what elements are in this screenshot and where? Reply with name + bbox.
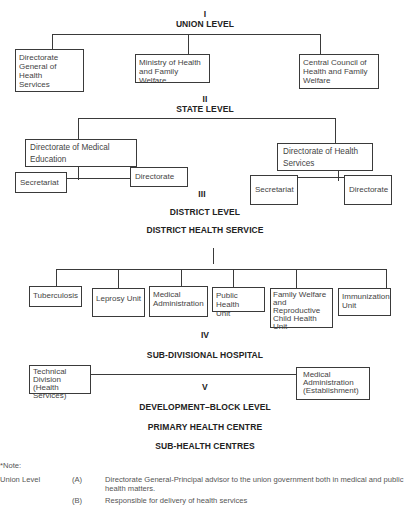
district-connector-3 bbox=[181, 269, 182, 286]
district-health-service-title: DISTRICT HEALTH SERVICE bbox=[0, 225, 410, 235]
district-connector-6 bbox=[386, 269, 387, 288]
box-directorate-medical-education: Directorate of Medical Education bbox=[25, 139, 137, 167]
district-level-title: DISTRICT LEVEL bbox=[0, 207, 410, 217]
box-state-left-directorate: Directorate bbox=[130, 167, 188, 187]
block-level-numeral: V bbox=[0, 382, 410, 392]
district-level-numeral: III bbox=[192, 189, 212, 199]
box-directorate-general: Directorate General of Health Services bbox=[15, 49, 84, 92]
state-level-title: STATE LEVEL bbox=[0, 104, 410, 114]
union-connector-right bbox=[320, 34, 321, 54]
state-right-down bbox=[338, 171, 339, 181]
union-connector bbox=[52, 34, 320, 35]
state-connector-right bbox=[335, 118, 336, 143]
box-state-left-secretariat: Secretariat bbox=[15, 172, 67, 193]
union-connector-mid bbox=[188, 34, 189, 54]
subdivisional-level-title: SUB-DIVISIONAL HOSPITAL bbox=[0, 350, 410, 360]
subdivisional-connector bbox=[91, 374, 296, 375]
box-leprosy-unit: Leprosy Unit bbox=[92, 288, 145, 317]
box-state-right-directorate: Directorate bbox=[344, 175, 392, 205]
box-ministry-health: Ministry of Health and Family Welfare bbox=[135, 54, 210, 83]
note-label: *Note: bbox=[0, 461, 21, 470]
district-stem bbox=[213, 248, 214, 264]
note-marker-b: (B) bbox=[72, 496, 82, 505]
box-family-welfare: Family Welfare and Reproductive Child He… bbox=[270, 288, 333, 328]
district-connector-5 bbox=[296, 269, 297, 288]
box-central-council: Central Council of Health and Family Wel… bbox=[299, 54, 379, 89]
district-connector-1 bbox=[56, 269, 57, 286]
state-connector bbox=[78, 118, 335, 119]
district-connector bbox=[56, 269, 386, 270]
union-level-title: UNION LEVEL bbox=[0, 19, 410, 29]
box-public-health-unit: Public Health Unit bbox=[212, 287, 265, 312]
state-level-numeral: II bbox=[0, 94, 410, 104]
note-text-a: Directorate General-Principal advisor to… bbox=[105, 475, 410, 484]
note-marker-a: (A) bbox=[72, 475, 82, 484]
note-text-b: Responsible for delivery of health servi… bbox=[105, 496, 247, 505]
box-state-right-secretariat: Secretariat bbox=[250, 175, 298, 205]
state-connector-left bbox=[78, 118, 79, 139]
note-section-union-level: Union Level bbox=[0, 475, 40, 484]
subdivisional-level-numeral: IV bbox=[0, 330, 410, 340]
box-immunization-unit: Immunization Unit bbox=[338, 288, 391, 316]
note-text-a-cont: health matters. bbox=[105, 484, 155, 493]
sub-health-centres-title: SUB-HEALTH CENTRES bbox=[0, 441, 410, 451]
primary-health-centre-title: PRIMARY HEALTH CENTRE bbox=[0, 422, 410, 432]
box-medical-administration: Medical Administration bbox=[149, 286, 208, 317]
district-connector-2 bbox=[118, 269, 119, 288]
union-level-numeral: I bbox=[0, 9, 410, 19]
box-tuberculosis: Tuberculosis bbox=[29, 286, 82, 307]
box-directorate-health-services: Directorate of Health Services bbox=[277, 143, 373, 171]
block-level-title: DEVELOPMENT–BLOCK LEVEL bbox=[0, 402, 410, 412]
district-connector-4 bbox=[233, 269, 234, 287]
state-left-children-connector bbox=[67, 178, 130, 179]
union-connector-left bbox=[52, 34, 53, 49]
state-right-children-connector bbox=[297, 177, 345, 178]
